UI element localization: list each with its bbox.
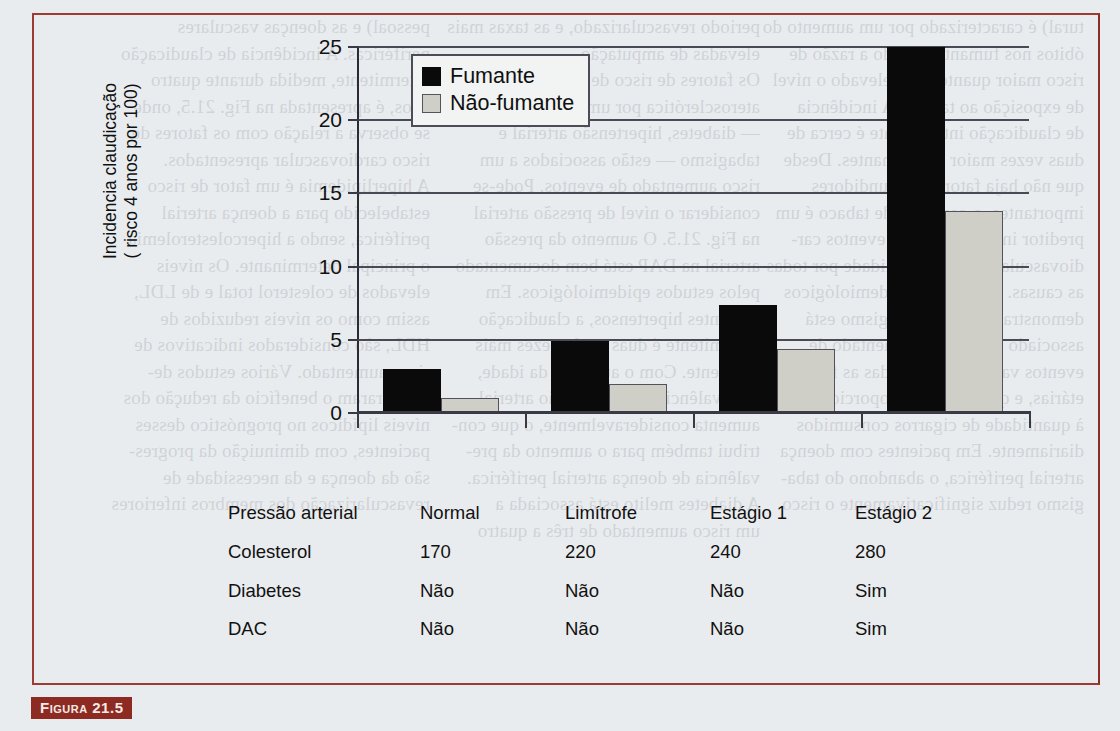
figure-caption-badge: Figura 21.5 [31, 697, 132, 719]
table-cell: Estágio 1 [710, 504, 787, 523]
table-cell: 220 [565, 543, 596, 562]
table-cell: Não [565, 582, 599, 601]
table-row-label: Pressão arterial [228, 504, 358, 523]
table-cell: 280 [855, 543, 886, 562]
table-cell: Não [565, 620, 599, 639]
table-cell: Sim [855, 582, 887, 601]
table-cell: Não [420, 582, 454, 601]
table-cell: Sim [855, 620, 887, 639]
table-row-label: Colesterol [228, 543, 311, 562]
table-cell: 170 [420, 543, 451, 562]
table-row-label: DAC [228, 620, 267, 639]
table-cell: Normal [420, 504, 480, 523]
table-cell: Não [710, 620, 744, 639]
table-row-label: Diabetes [228, 582, 301, 601]
table-cell: 240 [710, 543, 741, 562]
figure-data-table: Pressão arterialNormalLimítrofeEstágio 1… [0, 0, 1120, 731]
table-cell: Não [420, 620, 454, 639]
table-cell: Não [710, 582, 744, 601]
table-cell: Limítrofe [565, 504, 637, 523]
table-cell: Estágio 2 [855, 504, 932, 523]
